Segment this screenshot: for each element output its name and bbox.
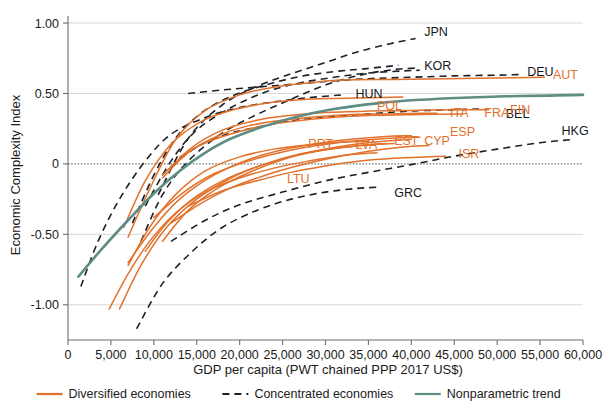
x-tick-label: 0 [65, 348, 72, 362]
series-label-grc: GRC [394, 186, 422, 200]
series-label-ita: ITA [450, 106, 469, 120]
economic-complexity-chart: -1.00-0.5000.501.0005,00010,00015,00020,… [0, 0, 608, 411]
series-label-esp: ESP [450, 125, 475, 139]
series-label-deu: DEU [527, 65, 553, 79]
x-tick-label: 60,000 [564, 348, 602, 362]
x-tick-label: 40,000 [392, 348, 430, 362]
series-label-jpn: JPN [424, 25, 448, 39]
x-tick-label: 15,000 [178, 348, 216, 362]
chart-canvas: -1.00-0.5000.501.0005,00010,00015,00020,… [0, 0, 608, 411]
y-tick-label: -0.50 [31, 228, 60, 242]
legend-label-diversified: Diversified economies [69, 387, 191, 401]
x-tick-label: 50,000 [478, 348, 516, 362]
x-tick-label: 30,000 [306, 348, 344, 362]
y-tick-label: 1.00 [35, 17, 59, 31]
x-tick-label: 55,000 [521, 348, 559, 362]
series-label-cyp: CYP [424, 134, 450, 148]
x-tick-label: 35,000 [349, 348, 387, 362]
legend: Diversified economiesConcentrated econom… [37, 387, 561, 401]
x-axis-title: GDP per capita (PWT chained PPP 2017 US$… [193, 362, 463, 377]
series-label-est: EST [394, 134, 419, 148]
x-tick-label: 10,000 [135, 348, 173, 362]
x-tick-label: 20,000 [221, 348, 259, 362]
x-tick-label: 25,000 [263, 348, 301, 362]
y-tick-label: 0.50 [35, 87, 59, 101]
y-tick-label: -1.00 [31, 298, 60, 312]
series-label-fra: FRA [484, 106, 510, 120]
x-tick-label: 45,000 [435, 348, 473, 362]
x-tick-label: 5,000 [95, 348, 126, 362]
series-label-aut: AUT [553, 68, 578, 82]
series-label-hkg: HKG [562, 124, 589, 138]
y-axis-title: Economic Complexity Index [8, 94, 23, 255]
legend-label-trend: Nonparametric trend [447, 387, 561, 401]
series-label-isr: ISR [459, 147, 480, 161]
series-label-lva: LVA [356, 138, 378, 152]
series-label-pol: POL [377, 99, 402, 113]
y-tick-label: 0 [52, 157, 59, 171]
legend-label-concentrated: Concentrated economies [254, 387, 393, 401]
chart-background [0, 0, 608, 411]
series-label-fin: FIN [510, 103, 530, 117]
series-label-kor: KOR [424, 59, 451, 73]
series-label-prt: PRT [308, 137, 333, 151]
series-label-ltu: LTU [287, 172, 310, 186]
